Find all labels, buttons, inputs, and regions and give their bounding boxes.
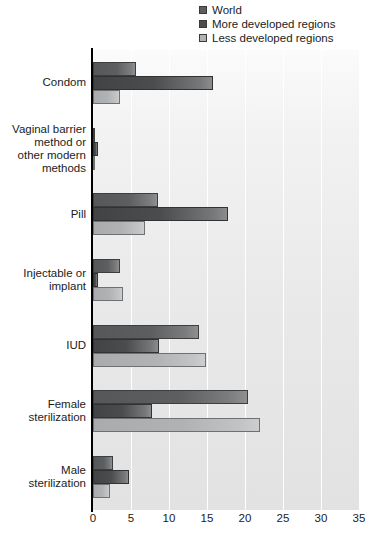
category-label-5: Femalesterilization bbox=[0, 398, 86, 424]
bar bbox=[93, 273, 98, 287]
x-tick-label-35: 35 bbox=[353, 512, 365, 524]
legend-label-world: World bbox=[212, 3, 242, 17]
bar bbox=[93, 221, 145, 235]
bar bbox=[93, 156, 95, 170]
bar bbox=[93, 390, 248, 404]
category-label-line: method or bbox=[0, 136, 86, 149]
legend-item-world: World bbox=[199, 3, 364, 17]
x-tick-label-10: 10 bbox=[163, 512, 176, 524]
category-label-line: Female bbox=[0, 398, 86, 411]
y-axis-line bbox=[91, 48, 93, 512]
x-axis-tick-labels: 05101520253035 bbox=[93, 512, 359, 536]
legend-label-less-developed: Less developed regions bbox=[212, 31, 333, 45]
bar bbox=[93, 287, 123, 301]
category-label-line: Pill bbox=[0, 208, 86, 221]
bar-group bbox=[93, 247, 359, 313]
bar bbox=[93, 404, 152, 418]
category-label-4: IUD bbox=[0, 339, 86, 352]
bar-group bbox=[93, 379, 359, 445]
plot-area bbox=[93, 50, 359, 510]
bar bbox=[93, 207, 228, 221]
category-label-3: Injectable orimplant bbox=[0, 267, 86, 293]
bar bbox=[93, 339, 159, 353]
x-tick-label-20: 20 bbox=[239, 512, 252, 524]
bar bbox=[93, 193, 158, 207]
bar-group bbox=[93, 313, 359, 379]
legend-swatch-world bbox=[199, 6, 207, 14]
bar-group bbox=[93, 181, 359, 247]
bar bbox=[93, 128, 95, 142]
category-label-1: Vaginal barriermethod orother modernmeth… bbox=[0, 123, 86, 175]
chart-legend: World More developed regions Less develo… bbox=[199, 3, 364, 45]
x-tick-label-0: 0 bbox=[90, 512, 96, 524]
category-label-2: Pill bbox=[0, 208, 86, 221]
bar bbox=[93, 90, 120, 104]
legend-item-less-developed-regions: Less developed regions bbox=[199, 31, 364, 45]
legend-label-more-developed: More developed regions bbox=[212, 17, 335, 31]
bar-group bbox=[93, 50, 359, 116]
bar bbox=[93, 353, 206, 367]
category-label-line: Male bbox=[0, 464, 86, 477]
bar bbox=[93, 484, 110, 498]
x-tick-label-5: 5 bbox=[128, 512, 134, 524]
bar bbox=[93, 418, 260, 432]
category-label-line: sterilization bbox=[0, 477, 86, 490]
category-label-line: implant bbox=[0, 280, 86, 293]
bar bbox=[93, 142, 98, 156]
category-label-0: Condom bbox=[0, 76, 86, 89]
category-label-line: Vaginal barrier bbox=[0, 123, 86, 136]
bar bbox=[93, 470, 129, 484]
bar bbox=[93, 259, 120, 273]
category-label-line: methods bbox=[0, 162, 86, 175]
bar bbox=[93, 456, 113, 470]
legend-item-more-developed-regions: More developed regions bbox=[199, 17, 364, 31]
bar bbox=[93, 76, 213, 90]
bar bbox=[93, 325, 199, 339]
x-tick-label-30: 30 bbox=[315, 512, 328, 524]
legend-swatch-more-developed bbox=[199, 20, 207, 28]
category-label-line: Condom bbox=[0, 76, 86, 89]
category-label-6: Malesterilization bbox=[0, 464, 86, 490]
bars-layer bbox=[93, 50, 359, 510]
category-label-line: other modern bbox=[0, 149, 86, 162]
bar-group bbox=[93, 444, 359, 510]
category-label-line: IUD bbox=[0, 339, 86, 352]
gridline-35 bbox=[359, 50, 360, 510]
x-tick-label-15: 15 bbox=[201, 512, 214, 524]
category-axis-labels: CondomVaginal barriermethod orother mode… bbox=[0, 50, 86, 510]
bar-group bbox=[93, 116, 359, 182]
category-label-line: sterilization bbox=[0, 411, 86, 424]
category-label-line: Injectable or bbox=[0, 267, 86, 280]
bar bbox=[93, 62, 136, 76]
x-tick-label-25: 25 bbox=[277, 512, 290, 524]
legend-swatch-less-developed bbox=[199, 34, 207, 42]
